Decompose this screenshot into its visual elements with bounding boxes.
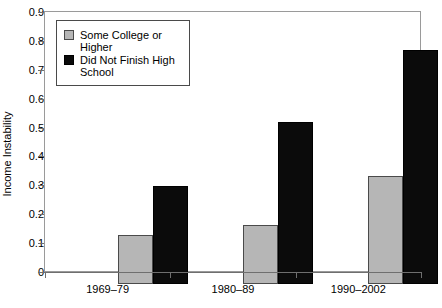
x-tick-mark [170,273,171,278]
legend-swatch-icon-black [64,55,74,65]
y-axis-ticks: 00.10.20.30.40.50.60.70.80.9 [0,0,44,308]
legend-item-some-college: Some College or Higher [64,29,184,53]
x-category-label: 1980–89 [212,283,255,295]
legend-label: Did Not Finish High School [80,54,184,78]
x-category-label: 1969–79 [86,283,129,295]
x-tick-mark [296,273,297,278]
chart-legend: Some College or Higher Did Not Finish Hi… [56,20,190,86]
x-tick-mark [421,273,422,278]
bar-some-college-1 [243,225,278,284]
bar-no-high-school-2 [403,50,438,284]
legend-item-did-not-finish-high-school: Did Not Finish High School [64,54,184,78]
bar-some-college-0 [118,235,153,284]
legend-label: Some College or Higher [80,29,184,53]
bar-no-high-school-1 [278,122,313,284]
x-category-label: 1990–2002 [331,283,386,295]
x-tick-mark [45,273,46,278]
bar-some-college-2 [368,176,403,284]
bar-no-high-school-0 [153,186,188,284]
legend-swatch-icon-gray [64,30,74,40]
x-axis-line [44,272,422,273]
